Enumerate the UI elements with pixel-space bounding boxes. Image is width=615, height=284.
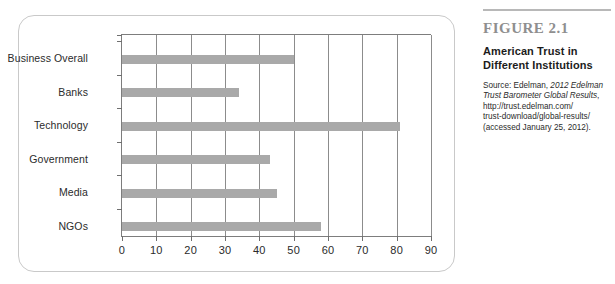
y-axis-tick xyxy=(117,209,122,210)
caption-panel: FIGURE 2.1 American Trust in Different I… xyxy=(483,9,611,133)
bar xyxy=(122,88,239,97)
x-axis-tick xyxy=(225,236,226,241)
bar xyxy=(122,222,321,231)
figure-title-line-2: Different Institutions xyxy=(483,59,593,71)
x-axis-label: 90 xyxy=(411,244,451,256)
source-prefix: Source: Edelman, xyxy=(483,81,550,90)
category-label: Business Overall xyxy=(0,52,88,64)
bar xyxy=(122,189,277,198)
gridline xyxy=(191,35,192,236)
category-label: Banks xyxy=(0,86,88,98)
y-axis-tick xyxy=(117,41,122,42)
plot-area: 0102030405060708090Business OverallBanks… xyxy=(121,34,431,237)
x-axis-tick xyxy=(191,236,192,241)
x-axis-tick xyxy=(259,236,260,241)
gridline xyxy=(431,35,432,236)
figure-title: American Trust in Different Institutions xyxy=(483,44,611,72)
source-accessed-date: (accessed January 25, 2012). xyxy=(483,123,591,132)
gridline xyxy=(397,35,398,236)
bar xyxy=(122,155,270,164)
x-axis-tick xyxy=(431,236,432,241)
gridline xyxy=(362,35,363,236)
x-axis-tick xyxy=(397,236,398,241)
category-label: NGOs xyxy=(0,220,88,232)
category-label: Media xyxy=(0,186,88,198)
category-label: Government xyxy=(0,153,88,165)
gridline xyxy=(225,35,226,236)
x-axis-tick xyxy=(156,236,157,241)
x-axis-tick xyxy=(294,236,295,241)
x-axis-tick xyxy=(122,236,123,241)
category-label: Technology xyxy=(0,119,88,131)
source-comma: , xyxy=(597,91,599,100)
gridline xyxy=(294,35,295,236)
y-axis-tick xyxy=(117,175,122,176)
x-axis-tick xyxy=(328,236,329,241)
y-axis-tick xyxy=(117,142,122,143)
figure-card: 0102030405060708090Business OverallBanks… xyxy=(18,15,455,272)
y-axis-tick xyxy=(117,108,122,109)
bar xyxy=(122,122,400,131)
source-url-line-1[interactable]: http://trust.edelman.com/ xyxy=(483,102,573,111)
caption-divider xyxy=(483,9,611,11)
figure-source: Source: Edelman, 2012 Edelman Trust Baro… xyxy=(483,81,611,133)
figure-title-line-1: American Trust in xyxy=(483,45,578,57)
bar-chart: 0102030405060708090Business OverallBanks… xyxy=(19,16,456,273)
source-url-line-2[interactable]: trust-download/global-results/ xyxy=(483,112,590,121)
gridline xyxy=(259,35,260,236)
figure-page: 0102030405060708090Business OverallBanks… xyxy=(0,0,615,284)
y-axis-tick xyxy=(117,75,122,76)
source-title-part-2: Trust Barometer Global Results xyxy=(483,91,597,100)
gridline xyxy=(156,35,157,236)
y-axis-tick xyxy=(117,35,122,36)
source-title-part-1: 2012 Edelman xyxy=(550,81,603,90)
x-axis-tick xyxy=(362,236,363,241)
figure-number: FIGURE 2.1 xyxy=(483,20,611,37)
bar xyxy=(122,55,294,64)
gridline xyxy=(328,35,329,236)
